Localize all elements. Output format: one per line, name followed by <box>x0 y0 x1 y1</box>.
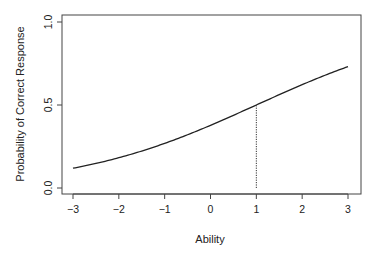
x-tick-label: 2 <box>299 203 305 215</box>
y-tick-label: 0.0 <box>42 181 54 196</box>
x-axis: −3−2−10123 <box>67 194 351 215</box>
x-tick-label: −1 <box>159 203 171 215</box>
plot-frame <box>62 15 361 194</box>
x-axis-title: Ability <box>195 233 225 245</box>
y-axis-title: Probability of Correct Response <box>14 26 26 181</box>
y-axis: 0.00.51.0 <box>42 15 62 196</box>
y-tick-label: 0.5 <box>42 98 54 113</box>
x-tick-label: 0 <box>208 203 214 215</box>
x-tick-label: 1 <box>253 203 259 215</box>
x-tick-label: 3 <box>345 203 351 215</box>
y-tick-label: 1.0 <box>42 15 54 30</box>
item-characteristic-chart: 0.00.51.0 −3−2−10123 Ability Probability… <box>0 0 376 254</box>
x-tick-label: −2 <box>113 203 125 215</box>
icc-curve <box>73 67 348 169</box>
x-tick-label: −3 <box>67 203 79 215</box>
